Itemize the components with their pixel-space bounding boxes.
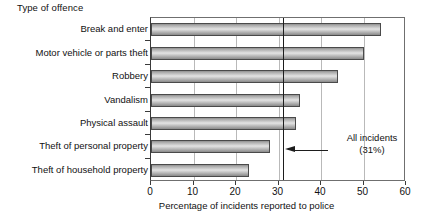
category-label: Theft of personal property xyxy=(2,140,148,151)
bar-chart: Type of offence Break and enterMotor veh… xyxy=(0,0,431,223)
x-axis-tick-label: 20 xyxy=(222,186,248,198)
bar xyxy=(151,23,381,36)
x-axis-tick xyxy=(363,181,364,185)
x-axis-tick xyxy=(150,181,151,185)
bar xyxy=(151,94,300,107)
y-axis-tick xyxy=(145,111,150,112)
bar xyxy=(151,47,364,60)
y-axis-tick xyxy=(145,87,150,88)
y-axis-tick xyxy=(145,134,150,135)
y-axis-title: Type of offence xyxy=(17,2,83,13)
bar xyxy=(151,70,338,83)
annotation-line-2: (31%) xyxy=(326,144,418,156)
annotation-line-1: All incidents xyxy=(326,132,418,144)
x-axis-tick xyxy=(405,181,406,185)
x-axis-tick-label: 30 xyxy=(265,186,291,198)
bar xyxy=(151,117,296,130)
bar xyxy=(151,164,249,177)
category-label: Vandalism xyxy=(2,94,148,105)
bar xyxy=(151,140,270,153)
category-label: Motor vehicle or parts theft xyxy=(2,47,148,58)
category-label-list: Break and enterMotor vehicle or parts th… xyxy=(0,17,148,181)
x-axis-tick-label: 40 xyxy=(307,186,333,198)
x-axis-tick-label: 60 xyxy=(392,186,418,198)
all-incidents-reference-line xyxy=(283,18,284,180)
category-label: Robbery xyxy=(2,70,148,81)
plot-area xyxy=(150,17,405,181)
x-axis-tick-label: 10 xyxy=(180,186,206,198)
x-axis-tick xyxy=(235,181,236,185)
x-axis-title: Percentage of incidents reported to poli… xyxy=(0,200,431,211)
annotation-leader-line xyxy=(295,150,328,151)
y-axis-tick xyxy=(145,40,150,41)
category-label: Physical assault xyxy=(2,117,148,128)
x-axis-tick xyxy=(193,181,194,185)
y-axis-tick xyxy=(145,64,150,65)
x-axis-tick-label: 50 xyxy=(350,186,376,198)
annotation-arrow-icon xyxy=(285,146,295,152)
all-incidents-annotation: All incidents (31%) xyxy=(326,132,418,156)
category-label: Theft of household property xyxy=(2,164,148,175)
x-axis-tick xyxy=(320,181,321,185)
x-axis-tick xyxy=(278,181,279,185)
y-axis-tick xyxy=(145,158,150,159)
x-axis-tick-label: 0 xyxy=(137,186,163,198)
category-label: Break and enter xyxy=(2,23,148,34)
